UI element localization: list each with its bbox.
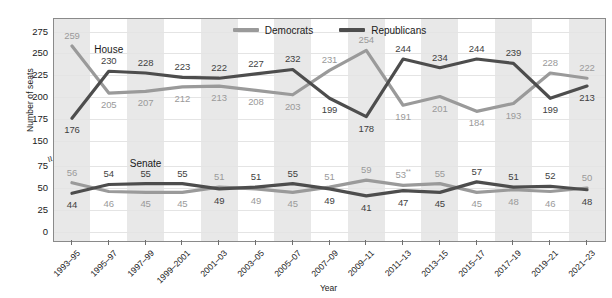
value-label-house-republicans-11: 244: [469, 43, 485, 54]
value-label-house-republicans-6: 232: [285, 53, 301, 64]
value-label-house-republicans-4: 222: [211, 62, 227, 73]
y-tick-25: 25: [14, 204, 48, 215]
x-tick-label-9: 2011–13: [383, 248, 413, 278]
value-label-house-republicans-7: 199: [322, 104, 338, 115]
x-tickmark-0: [71, 240, 72, 245]
x-tickmark-6: [292, 240, 293, 245]
x-tickmark-7: [329, 240, 330, 245]
x-tick-label-11: 2015–17: [456, 248, 487, 279]
value-label-senate-democrats-7: 51: [324, 171, 334, 182]
value-label-house-democrats-7: 231: [322, 54, 338, 65]
value-label-house-democrats-9: 191: [395, 111, 411, 122]
value-label-senate-democrats-9: 53**: [395, 168, 410, 180]
x-tick-label-14: 2021–23: [566, 248, 597, 279]
value-label-senate-republicans-9: 47: [398, 196, 408, 207]
value-label-house-democrats-1: 205: [101, 99, 117, 110]
value-label-senate-republicans-3: 55: [177, 167, 187, 178]
value-label-house-democrats-3: 212: [175, 92, 191, 103]
x-tick-label-7: 2007–09: [309, 248, 340, 279]
value-label-senate-republicans-1: 54: [104, 168, 114, 179]
y-tick-75: 75: [14, 160, 48, 171]
x-tickmark-9: [402, 240, 403, 245]
value-label-house-democrats-6: 203: [285, 100, 301, 111]
value-label-house-republicans-8: 178: [359, 122, 375, 133]
x-tickmark-10: [439, 240, 440, 245]
value-label-senate-democrats-8: 59: [361, 164, 371, 175]
y-tick-250: 250: [14, 47, 48, 58]
value-label-senate-democrats-2: 45: [140, 198, 150, 209]
value-label-senate-democrats-3: 45: [177, 198, 187, 209]
x-tick-label-13: 2019–21: [530, 248, 561, 279]
value-label-senate-democrats-0: 56: [67, 166, 77, 177]
x-tickmark-5: [255, 240, 256, 245]
value-label-house-democrats-0: 259: [64, 29, 80, 40]
x-tick-label-3: 1999–2001: [155, 248, 192, 285]
footnote-marker: **: [406, 168, 411, 175]
value-label-senate-republicans-0: 44: [67, 199, 77, 210]
chamber-label-house: House: [94, 44, 123, 55]
y-axis: Number of seats 275250225200175150755025…: [6, 0, 48, 298]
value-label-house-democrats-5: 208: [248, 96, 264, 107]
value-label-senate-democrats-14: 50: [582, 172, 592, 183]
value-label-house-democrats-13: 228: [542, 56, 558, 67]
value-label-senate-republicans-14: 48: [582, 195, 592, 206]
x-tick-label-8: 2009–11: [346, 248, 376, 278]
value-label-house-democrats-11: 184: [469, 117, 485, 128]
x-tick-label-12: 2017–19: [493, 248, 524, 279]
x-tick-label-2: 1997–99: [125, 248, 156, 279]
y-tick-150: 150: [14, 135, 48, 146]
value-label-senate-republicans-7: 49: [324, 194, 334, 205]
x-tickmark-8: [365, 240, 366, 245]
x-tickmark-13: [549, 240, 550, 245]
x-tick-label-1: 1995–97: [88, 248, 119, 279]
x-tick-label-6: 2005–07: [272, 248, 303, 279]
value-label-senate-republicans-6: 55: [288, 167, 298, 178]
x-tickmark-12: [512, 240, 513, 245]
value-label-house-republicans-3: 223: [175, 61, 191, 72]
value-label-house-democrats-8: 254: [359, 34, 375, 45]
value-label-house-republicans-0: 176: [64, 124, 80, 135]
y-tick-200: 200: [14, 91, 48, 102]
value-label-house-democrats-2: 207: [138, 97, 154, 108]
value-label-house-republicans-1: 230: [101, 55, 117, 66]
value-label-house-republicans-10: 234: [432, 51, 448, 62]
value-label-senate-democrats-11: 45: [471, 198, 481, 209]
x-tickmark-3: [181, 240, 182, 245]
value-label-senate-republicans-11: 57: [471, 165, 481, 176]
series-lines: [54, 19, 605, 241]
value-label-senate-republicans-8: 41: [361, 201, 371, 212]
x-tick-label-5: 2003–05: [235, 248, 266, 279]
y-tick-175: 175: [14, 113, 48, 124]
x-tickmark-2: [145, 240, 146, 245]
value-label-senate-republicans-10: 45: [435, 198, 445, 209]
x-tickmark-14: [586, 240, 587, 245]
value-label-senate-republicans-4: 49: [214, 194, 224, 205]
value-label-senate-democrats-5: 49: [251, 194, 261, 205]
y-tick-0: 0: [14, 226, 48, 237]
value-label-senate-democrats-13: 46: [545, 197, 555, 208]
y-tick-50: 50: [14, 182, 48, 193]
value-label-senate-democrats-12: 48: [508, 195, 518, 206]
value-label-senate-republicans-13: 52: [545, 170, 555, 181]
value-label-house-democrats-14: 222: [579, 62, 595, 73]
value-label-senate-democrats-10: 55: [435, 167, 445, 178]
value-label-senate-democrats-6: 45: [288, 198, 298, 209]
x-tickmark-4: [218, 240, 219, 245]
y-tick-225: 225: [14, 69, 48, 80]
value-label-house-republicans-14: 213: [579, 92, 595, 103]
x-tickmark-11: [476, 240, 477, 245]
value-label-house-republicans-9: 244: [395, 43, 411, 54]
chart-root: Number of seats 275250225200175150755025…: [0, 0, 612, 298]
value-label-senate-democrats-1: 46: [104, 197, 114, 208]
value-label-house-republicans-2: 228: [138, 56, 154, 67]
chamber-label-senate: Senate: [130, 157, 162, 168]
x-tickmark-1: [108, 240, 109, 245]
y-tick-275: 275: [14, 26, 48, 37]
value-label-house-democrats-4: 213: [211, 92, 227, 103]
value-label-house-republicans-12: 239: [506, 47, 522, 58]
x-tick-label-0: 1993–95: [51, 248, 82, 279]
x-tick-label-10: 2013–15: [419, 248, 450, 279]
value-label-senate-republicans-2: 55: [140, 167, 150, 178]
value-label-senate-republicans-5: 51: [251, 171, 261, 182]
plot-area: 2592052072122132082032312541912011841932…: [53, 18, 606, 242]
